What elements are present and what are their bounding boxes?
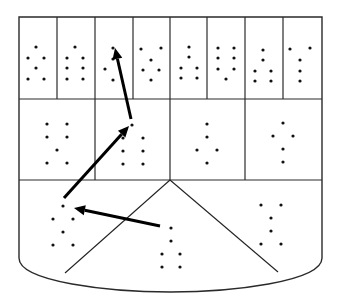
dot bbox=[169, 239, 172, 242]
dot bbox=[160, 265, 163, 268]
dot bbox=[259, 203, 262, 206]
dot bbox=[51, 243, 54, 246]
dot bbox=[65, 77, 68, 80]
dot bbox=[65, 122, 68, 125]
dot bbox=[269, 79, 272, 82]
dot bbox=[61, 204, 64, 207]
dot bbox=[261, 48, 264, 51]
row1-cell-6 bbox=[216, 46, 235, 80]
dot bbox=[205, 161, 208, 164]
row1-cell-2 bbox=[65, 45, 84, 80]
arrowhead-icon bbox=[113, 48, 123, 60]
dot bbox=[81, 77, 84, 80]
dot bbox=[130, 123, 133, 126]
dot bbox=[45, 161, 48, 164]
dot bbox=[215, 148, 218, 151]
dot bbox=[179, 66, 182, 69]
dot bbox=[26, 77, 29, 80]
dot bbox=[149, 78, 152, 81]
row2-cell-1 bbox=[45, 122, 68, 164]
dot bbox=[179, 76, 182, 79]
dot bbox=[111, 78, 114, 81]
dot bbox=[261, 58, 264, 61]
dot bbox=[34, 45, 37, 48]
dot bbox=[216, 56, 219, 59]
dot bbox=[298, 58, 301, 61]
dot bbox=[141, 162, 144, 165]
dot bbox=[65, 56, 68, 59]
dot bbox=[269, 216, 272, 219]
dot bbox=[121, 162, 124, 165]
arrow-shaft bbox=[64, 134, 122, 198]
dot bbox=[45, 135, 48, 138]
dot bbox=[71, 217, 74, 220]
dot bbox=[141, 149, 144, 152]
dot bbox=[195, 76, 198, 79]
dot bbox=[281, 121, 284, 124]
dot bbox=[149, 58, 152, 61]
arrow-3 bbox=[113, 48, 131, 119]
shield-diagram bbox=[0, 0, 338, 306]
dot bbox=[169, 226, 172, 229]
row1-cell-7 bbox=[253, 48, 272, 82]
dot bbox=[195, 148, 198, 151]
dot bbox=[253, 69, 256, 72]
diagonal-divider-right bbox=[170, 180, 278, 272]
arrow-shaft bbox=[117, 59, 131, 119]
bottom-cell-3 bbox=[259, 203, 282, 245]
dot bbox=[269, 229, 272, 232]
dot bbox=[232, 56, 235, 59]
dot bbox=[281, 160, 284, 163]
dot bbox=[232, 46, 235, 49]
dot bbox=[42, 77, 45, 80]
dot bbox=[55, 148, 58, 151]
arrow-2 bbox=[64, 126, 129, 198]
arrow-1 bbox=[74, 205, 160, 226]
dot bbox=[178, 252, 181, 255]
dot bbox=[271, 134, 274, 137]
dot bbox=[61, 230, 64, 233]
diagonal-divider-left bbox=[65, 180, 170, 273]
dot bbox=[187, 55, 190, 58]
row2-cell-3 bbox=[195, 122, 218, 164]
dot bbox=[121, 149, 124, 152]
dot bbox=[73, 45, 76, 48]
dot bbox=[26, 56, 29, 59]
dot bbox=[178, 265, 181, 268]
dot bbox=[81, 66, 84, 69]
dot bbox=[224, 77, 227, 80]
dot bbox=[253, 79, 256, 82]
dot bbox=[259, 242, 262, 245]
dot bbox=[205, 122, 208, 125]
dot bbox=[160, 252, 163, 255]
path-arrows bbox=[64, 48, 160, 226]
bottom-cell-2 bbox=[160, 226, 181, 268]
dot bbox=[216, 67, 219, 70]
bottom-cell-1 bbox=[51, 204, 74, 246]
dot bbox=[187, 45, 190, 48]
dot bbox=[205, 135, 208, 138]
grid-dividers bbox=[19, 17, 322, 273]
dot bbox=[121, 136, 124, 139]
dot bbox=[34, 66, 37, 69]
dot bbox=[232, 67, 235, 70]
dot bbox=[65, 161, 68, 164]
dot bbox=[291, 134, 294, 137]
dot bbox=[139, 47, 142, 50]
diagram-canvas bbox=[0, 0, 338, 306]
dot bbox=[51, 217, 54, 220]
dot bbox=[298, 69, 301, 72]
row1-cell-1 bbox=[26, 45, 45, 80]
dot bbox=[111, 46, 114, 49]
dot bbox=[103, 67, 106, 70]
dot bbox=[65, 66, 68, 69]
dot-patterns bbox=[26, 45, 311, 268]
dot bbox=[269, 69, 272, 72]
row1-cell-3 bbox=[103, 46, 114, 81]
arrow-shaft bbox=[85, 210, 160, 226]
dot bbox=[141, 136, 144, 139]
row1-cell-8 bbox=[288, 46, 311, 82]
dot bbox=[279, 203, 282, 206]
dot bbox=[141, 68, 144, 71]
dot bbox=[81, 56, 84, 59]
